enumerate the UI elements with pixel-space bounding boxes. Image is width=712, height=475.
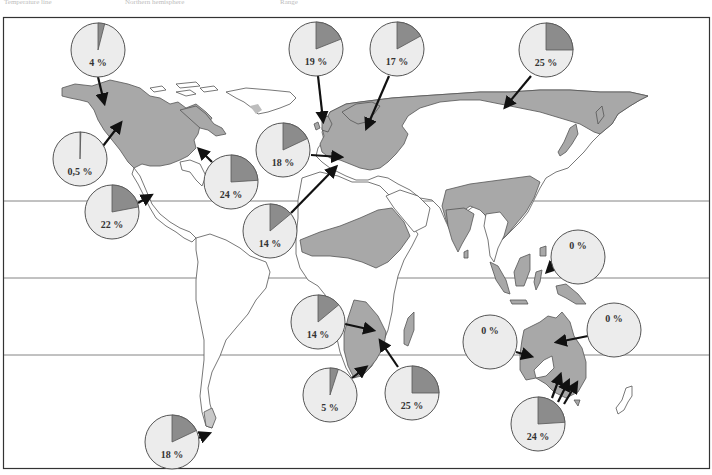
pie-mediterranean: 14 % (243, 204, 297, 258)
pie-southern-africa: 5 % (303, 368, 357, 422)
pie-label-canada: 4 % (89, 57, 107, 68)
pie-remainder-eastern-australia (587, 303, 641, 357)
pie-alaska: 0,5 % (53, 132, 107, 186)
pie-label-patagonia: 18 % (161, 449, 184, 460)
pie-patagonia: 18 % (145, 415, 199, 469)
pie-label-alaska: 0,5 % (68, 166, 93, 177)
pie-label-mediterranean: 14 % (259, 238, 282, 249)
pie-label-western-europe: 18 % (272, 157, 295, 168)
pie-indonesia: 0 % (551, 230, 605, 284)
pie-canada: 4 % (71, 23, 125, 77)
pie-label-indonesia: 0 % (569, 240, 587, 251)
world-map-chart: 4 %0,5 %24 %22 %19 %17 %18 %14 %25 %14 %… (0, 0, 712, 475)
pie-label-northern-europe: 17 % (386, 56, 409, 67)
pie-label-eastern-australia: 0 % (605, 313, 623, 324)
pie-label-western-australia: 0 % (481, 325, 499, 336)
pie-remainder-indonesia (551, 230, 605, 284)
pie-western-australia: 0 % (463, 315, 517, 369)
land-philippines (540, 246, 546, 256)
pie-label-southern-africa: 5 % (321, 402, 339, 413)
pie-eastern-australia: 0 % (587, 303, 641, 357)
pie-siberia: 25 % (519, 23, 573, 77)
pie-south-east-africa: 25 % (385, 366, 439, 420)
land-java (510, 300, 528, 304)
pie-eastern-north-america: 24 % (204, 155, 258, 209)
pie-label-southern-australia: 24 % (527, 431, 550, 442)
pie-western-north-america: 22 % (85, 185, 139, 239)
pie-label-siberia: 25 % (535, 57, 558, 68)
pie-east-africa: 14 % (291, 295, 345, 349)
pie-label-british-isles: 19 % (305, 56, 328, 67)
pie-northern-europe: 17 % (370, 22, 424, 76)
pie-southern-australia: 24 % (511, 397, 565, 451)
pie-label-eastern-north-america: 24 % (220, 189, 243, 200)
pie-label-south-east-africa: 25 % (401, 400, 424, 411)
pie-remainder-western-australia (463, 315, 517, 369)
pie-western-europe: 18 % (256, 123, 310, 177)
pie-label-east-africa: 14 % (307, 329, 330, 340)
pie-label-western-north-america: 22 % (101, 219, 124, 230)
pie-british-isles: 19 % (289, 22, 343, 76)
